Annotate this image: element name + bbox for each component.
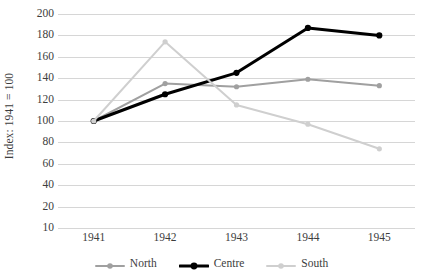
legend-label: North xyxy=(130,258,157,270)
data-point xyxy=(305,122,310,127)
legend-label: South xyxy=(301,258,328,270)
y-axis-tick-label: 140 xyxy=(37,72,54,84)
y-axis-tick-label: 200 xyxy=(37,8,54,20)
data-point xyxy=(162,91,168,97)
y-axis-tick-label: 40 xyxy=(43,179,55,191)
data-point xyxy=(305,77,310,82)
plot-area xyxy=(58,14,415,228)
y-axis-tick-label: 120 xyxy=(37,94,54,106)
data-point xyxy=(163,39,168,44)
y-axis-title-text: Index: 1941 = 100 xyxy=(3,73,15,159)
data-point xyxy=(234,84,239,89)
data-point xyxy=(91,118,96,123)
line-marker-icon xyxy=(179,258,209,270)
x-axis-tick-label: 1941 xyxy=(82,232,105,244)
y-axis-tick-label: 10 xyxy=(43,222,55,234)
y-axis-tick-label: 80 xyxy=(43,137,55,149)
series-line xyxy=(94,42,380,149)
data-point xyxy=(377,146,382,151)
line-chart: Index: 1941 = 100 2001801601401201008060… xyxy=(0,0,423,280)
data-point xyxy=(234,102,239,107)
x-axis-tick-label: 1944 xyxy=(296,232,319,244)
data-point xyxy=(163,81,168,86)
y-axis-tick-label: 180 xyxy=(37,30,54,42)
x-axis-tick-labels: 19411942194319441945 xyxy=(58,232,415,250)
legend-entry-south[interactable]: South xyxy=(266,258,328,270)
legend-label: Centre xyxy=(214,258,245,270)
series-north xyxy=(91,77,382,124)
legend-entry-centre[interactable]: Centre xyxy=(179,258,245,270)
data-point xyxy=(305,25,311,31)
series-plot xyxy=(58,14,415,228)
legend-entry-north[interactable]: North xyxy=(95,258,157,270)
x-axis-tick-label: 1942 xyxy=(154,232,177,244)
line-marker-icon xyxy=(95,258,125,270)
data-point xyxy=(377,83,382,88)
y-axis-tick-label: 20 xyxy=(43,201,55,213)
y-axis-title: Index: 1941 = 100 xyxy=(0,0,18,232)
data-point xyxy=(233,70,239,76)
line-marker-icon xyxy=(266,258,296,270)
y-axis-tick-label: 160 xyxy=(37,51,54,63)
x-axis-tick-label: 1943 xyxy=(225,232,248,244)
y-axis-tick-label: 60 xyxy=(43,158,55,170)
chart-legend: NorthCentreSouth xyxy=(0,253,423,275)
x-axis-tick-label: 1945 xyxy=(368,232,391,244)
gridline xyxy=(58,228,415,229)
y-axis-tick-labels: 2001801601401201008060402010 xyxy=(18,0,58,232)
y-axis-tick-label: 100 xyxy=(37,115,54,127)
series-south xyxy=(91,39,382,151)
data-point xyxy=(376,32,382,38)
